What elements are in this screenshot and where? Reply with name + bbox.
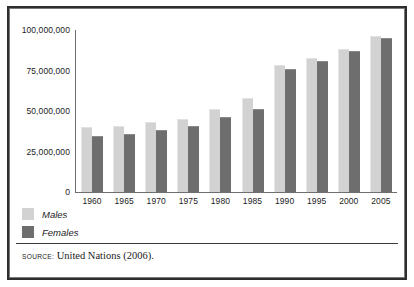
bar-group [172,30,204,192]
legend-swatch-icon [22,208,34,220]
bar-males-1980 [209,109,220,192]
bar-males-1995 [306,58,317,192]
source-note: SOURCE: United Nations (2006). [22,250,392,261]
bar-females-1975 [188,126,199,192]
x-axis-line [75,192,397,193]
bar-females-2005 [381,38,392,192]
y-tick-label: 100,000,000 [22,25,70,35]
y-tick-label: 50,000,000 [26,106,70,116]
source-kicker-label: SOURCE: [22,253,54,260]
bar-group [365,30,397,192]
source-text: United Nations (2006). [57,250,154,261]
x-tick-label: 1980 [204,196,236,210]
bar-females-1995 [317,61,328,192]
bar-females-1965 [124,134,135,192]
legend-item-males: Males [22,206,182,222]
y-tick-label: 25,000,000 [26,147,70,157]
y-tick-label: 75,000,000 [26,66,70,76]
legend-swatch-icon [22,226,34,238]
bar-males-1965 [113,126,124,192]
bar-group [108,30,140,192]
bar-group [301,30,333,192]
bar-group [204,30,236,192]
bar-males-1990 [274,65,285,192]
bar-males-1985 [242,98,253,192]
bar-males-1970 [145,122,156,192]
legend-label: Males [42,209,67,220]
x-tick-label: 1990 [269,196,301,210]
bar-females-1970 [156,130,167,192]
plot-area: 100,000,00075,000,00050,000,00025,000,00… [14,14,400,204]
bar-females-1990 [285,69,296,192]
bar-males-1975 [177,119,188,192]
bar-females-2000 [349,51,360,192]
y-tick-label: 0 [65,187,70,197]
bar-females-1980 [220,117,231,192]
bar-group [333,30,365,192]
bar-group [140,30,172,192]
bar-groups-container [76,30,397,192]
bar-males-2000 [338,49,349,192]
bar-males-2005 [370,36,381,192]
x-tick-label: 1985 [236,196,268,210]
bar-group [269,30,301,192]
x-tick-label: 2005 [365,196,397,210]
x-tick-label: 1995 [301,196,333,210]
x-tick-label: 2000 [333,196,365,210]
bar-females-1960 [92,136,103,192]
figure-container: 100,000,00075,000,00050,000,00025,000,00… [0,0,414,287]
bar-group [236,30,268,192]
legend-label: Females [42,227,78,238]
source-divider [16,243,398,244]
bar-males-1960 [81,127,92,192]
chart-legend: MalesFemales [22,206,182,242]
bar-females-1985 [253,109,264,192]
bar-group [76,30,108,192]
legend-item-females: Females [22,224,182,240]
y-axis-tick-labels: 100,000,00075,000,00050,000,00025,000,00… [14,14,74,204]
